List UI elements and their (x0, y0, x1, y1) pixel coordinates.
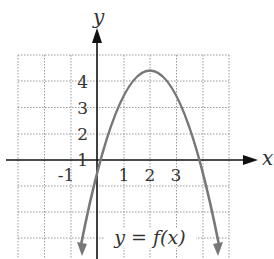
svg-text:4: 4 (77, 72, 88, 92)
svg-text:3: 3 (77, 98, 88, 118)
chart-container: y x 4 3 2 1 -1 1 2 3 y = f(x) (0, 0, 274, 259)
svg-text:1: 1 (119, 165, 130, 185)
curve-left-arrow-icon (77, 242, 87, 256)
x-axis-label: x (262, 146, 273, 170)
svg-text:-1: -1 (58, 165, 75, 185)
svg-text:3: 3 (171, 165, 182, 185)
function-label: y = f(x) (113, 226, 185, 248)
y-axis-arrow-icon (92, 28, 102, 43)
y-axis-label: y (92, 5, 105, 29)
y-tick-labels: 4 3 2 1 (77, 72, 88, 170)
svg-text:2: 2 (145, 165, 156, 185)
svg-text:2: 2 (77, 124, 88, 144)
parabola-chart: y x 4 3 2 1 -1 1 2 3 y = f(x) (0, 0, 274, 259)
x-axis-arrow-icon (243, 155, 258, 165)
svg-text:1: 1 (77, 150, 88, 170)
curve-right-arrow-icon (213, 242, 223, 256)
